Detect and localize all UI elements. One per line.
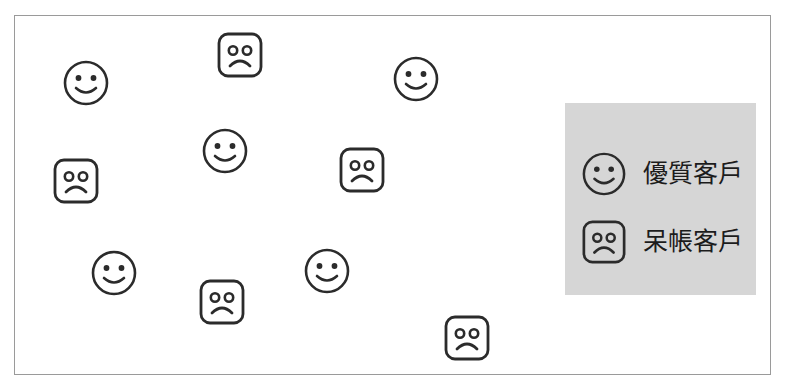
smiley-face-round-icon: [303, 247, 351, 295]
customer-segmentation-figure: 優質客戶 呆帳客戶: [0, 0, 788, 392]
smiley-face-4: [90, 249, 138, 297]
smiley-face-5: [303, 247, 351, 295]
sad-face-square-icon: [581, 219, 627, 265]
legend-item-good-customer: 優質客戶: [581, 151, 743, 197]
smiley-face-round-icon: [201, 127, 249, 175]
figure-frame: 優質客戶 呆帳客戶: [14, 15, 771, 375]
legend-label-bad-debt-customer: 呆帳客戶: [643, 219, 743, 265]
legend-panel: 優質客戶 呆帳客戶: [565, 103, 756, 295]
sad-face-1: [216, 31, 264, 79]
sad-face-square-icon: [198, 278, 246, 326]
smiley-face-round-icon: [90, 249, 138, 297]
sad-face-square-icon: [443, 314, 491, 362]
sad-face-5: [443, 314, 491, 362]
legend-item-bad-debt-customer: 呆帳客戶: [581, 219, 743, 265]
sad-face-2: [338, 146, 386, 194]
sad-face-4: [198, 278, 246, 326]
sad-face-square-icon: [338, 146, 386, 194]
smiley-face-2: [392, 55, 440, 103]
sad-face-square-icon: [52, 157, 100, 205]
legend-label-good-customer: 優質客戶: [643, 151, 743, 197]
smiley-face-round-icon: [392, 55, 440, 103]
smiley-face-round-icon: [581, 151, 627, 197]
smiley-face-1: [62, 59, 110, 107]
sad-face-square-icon: [216, 31, 264, 79]
smiley-face-3: [201, 127, 249, 175]
sad-face-3: [52, 157, 100, 205]
smiley-face-round-icon: [62, 59, 110, 107]
scatter-plot-area: 優質客戶 呆帳客戶: [15, 16, 772, 376]
